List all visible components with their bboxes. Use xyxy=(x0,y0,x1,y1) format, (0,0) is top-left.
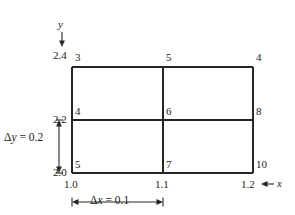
y-axis-label: y xyxy=(58,19,63,30)
delta-x-label: Δx = 0.1 xyxy=(90,195,129,207)
node-label-bottom-left: 5 xyxy=(75,159,81,170)
x-tick-1.1: 1.1 xyxy=(155,179,169,190)
y-tick-2.2: 2.2 xyxy=(53,114,67,125)
delta-y-value: = 0.2 xyxy=(19,131,43,143)
node-label-top-left: 3 xyxy=(75,52,81,63)
node-label-bottom-right: 10 xyxy=(256,159,267,170)
x-axis-label: x xyxy=(277,178,282,189)
y-tick-2.4: 2.4 xyxy=(53,50,67,61)
delta-y-label: Δy = 0.2 xyxy=(4,132,43,144)
delta-x-variable: x xyxy=(97,194,102,206)
x-tick-1.2: 1.2 xyxy=(241,179,255,190)
delta-y-variable: y xyxy=(11,131,16,143)
x-axis-arrow-icon xyxy=(261,181,274,187)
node-label-top-middle: 5 xyxy=(166,52,172,63)
node-label-bottom-middle: 7 xyxy=(166,159,172,170)
x-tick-1.0: 1.0 xyxy=(64,179,78,190)
mesh-figure: y x 2.4 2.2 2.0 1.0 1.1 1.2 3 5 4 4 6 8 … xyxy=(0,0,295,215)
y-tick-2.0: 2.0 xyxy=(53,167,67,178)
node-label-mid-left: 4 xyxy=(75,106,81,117)
node-label-mid-middle: 6 xyxy=(166,106,172,117)
y-axis-arrow-icon xyxy=(59,32,65,47)
delta-x-value: = 0.1 xyxy=(105,194,129,206)
node-label-top-right: 4 xyxy=(256,52,262,63)
node-label-mid-right: 8 xyxy=(256,106,262,117)
